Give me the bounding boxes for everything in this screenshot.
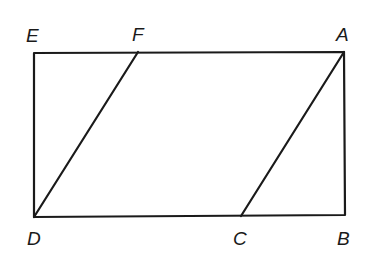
segment-df — [34, 52, 138, 217]
label-e: E — [26, 25, 39, 46]
label-c: C — [233, 228, 247, 249]
label-f: F — [132, 24, 145, 45]
rectangle-eabd — [34, 52, 345, 217]
label-a: A — [335, 24, 349, 45]
geometry-diagram: E F A D C B — [0, 0, 371, 259]
label-b: B — [337, 228, 350, 249]
segment-ca — [241, 52, 344, 216]
label-d: D — [27, 228, 41, 249]
